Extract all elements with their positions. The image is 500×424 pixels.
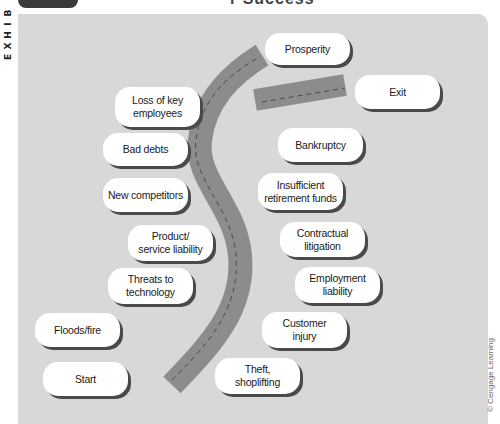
road-exit-branch [255,85,345,100]
box-label: Exit [389,86,406,99]
box-label: Loss of key employees [132,94,183,120]
box-bankruptcy: Bankruptcy [278,128,363,162]
box-start: Start [43,362,128,396]
box-threats-to-technology: Threats to technology [108,268,193,304]
box-new-competitors: New competitors [103,178,188,212]
box-customer-injury: Customer injury [262,312,347,348]
box-theft-shoplifting: Theft, shoplifting [215,358,300,394]
box-bad-debts: Bad debts [103,133,188,166]
box-contractual-litigation: Contractual litigation [280,222,365,257]
box-label: Floods/fire [54,324,101,337]
box-label: Contractual litigation [297,227,349,253]
box-insufficient-retirement-funds: Insufficient retirement funds [258,173,343,210]
box-employment-liability: Employment liability [295,267,380,303]
box-label: Start [75,373,96,386]
box-label: Bad debts [123,143,169,156]
box-label: Threats to technology [126,273,175,299]
box-prosperity: Prosperity [265,33,350,65]
box-label: Prosperity [285,43,330,56]
box-label: Employment liability [309,272,365,298]
box-label: Theft, shoplifting [235,363,280,389]
box-floods-fire: Floods/fire [35,313,120,347]
box-label: New competitors [108,189,183,202]
copyright-credit: © Cengage Learning [486,338,495,412]
box-product-service-liability: Product/ service liability [128,225,213,261]
box-label: Product/ service liability [138,230,202,256]
box-loss-of-key-employees: Loss of key employees [115,87,200,127]
box-label: Bankruptcy [295,139,346,152]
box-label: Insufficient retirement funds [264,179,337,205]
box-exit: Exit [355,75,440,109]
box-label: Customer injury [283,317,327,343]
